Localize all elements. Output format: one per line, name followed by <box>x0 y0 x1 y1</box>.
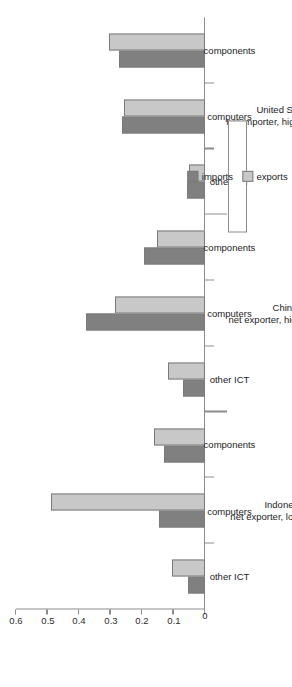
category-label: components <box>224 17 235 83</box>
category-slot: other ICT <box>16 543 205 609</box>
bar-exports[interactable] <box>124 99 205 116</box>
axis-tick-label: 0.6 <box>11 613 22 627</box>
bar-imports[interactable] <box>144 247 205 264</box>
category-slot: other ICT <box>16 149 205 215</box>
category-slot: components <box>16 214 205 280</box>
bar-exports[interactable] <box>172 559 205 576</box>
category-label: other ICT <box>224 346 235 412</box>
bar-imports[interactable] <box>164 445 205 462</box>
country-caption: Chinanet exporter, higher growth <box>273 214 292 411</box>
legend-label: exports <box>257 170 288 181</box>
category-separator <box>205 279 214 280</box>
category-separator <box>205 82 214 83</box>
bar-chart: 00.10.20.30.40.50.6 other ICTcomputersco… <box>0 0 292 687</box>
plot-area: 00.10.20.30.40.50.6 other ICTcomputersco… <box>16 17 205 609</box>
axis-tick-label: 0.4 <box>74 613 85 627</box>
legend-item-imports[interactable]: imports <box>187 170 233 181</box>
chart-legend: importsexports <box>228 120 247 232</box>
category-separator <box>205 147 214 148</box>
bar-imports[interactable] <box>159 510 205 527</box>
bar-exports[interactable] <box>157 230 205 247</box>
country-separator <box>205 410 227 411</box>
country-group-indonesia: other ICTcomputerscomponentsIndonesianet… <box>16 412 205 609</box>
axis-tick-label: 0 <box>200 613 211 618</box>
bar-imports[interactable] <box>188 576 205 593</box>
bar-exports[interactable] <box>154 428 205 445</box>
category-slot: computers <box>16 280 205 346</box>
country-note: net exporter, lower growth <box>230 510 292 522</box>
country-caption: Indonesianet exporter, lower growth <box>273 412 292 609</box>
country-group-united-states: other ICTcomputerscomponentsUnited State… <box>16 17 205 214</box>
category-separator <box>205 542 214 543</box>
bar-imports[interactable] <box>183 379 205 396</box>
category-separator <box>205 345 214 346</box>
legend-swatch-imports <box>187 170 198 181</box>
category-slot: other ICT <box>16 346 205 412</box>
legend-swatch-exports <box>242 170 253 181</box>
category-label: other ICT <box>224 543 235 609</box>
legend-item-exports[interactable]: exports <box>242 170 288 181</box>
legend-label: imports <box>202 170 233 181</box>
country-separator <box>205 213 227 214</box>
bar-groups: other ICTcomputerscomponentsIndonesianet… <box>16 17 205 609</box>
bar-imports[interactable] <box>86 313 205 330</box>
axis-tick-label: 0.2 <box>137 613 148 627</box>
country-note: net exporter, higher growth <box>228 313 292 325</box>
bar-exports[interactable] <box>51 493 205 510</box>
category-separator <box>205 476 214 477</box>
country-group-china: other ICTcomputerscomponentsChinanet exp… <box>16 214 205 411</box>
bar-imports[interactable] <box>122 116 205 133</box>
country-name: United States <box>226 104 292 116</box>
bar-exports[interactable] <box>168 362 205 379</box>
axis-tick-label: 0.1 <box>168 613 179 627</box>
bar-imports[interactable] <box>187 181 205 198</box>
bar-imports[interactable] <box>119 50 205 67</box>
category-slot: computers <box>16 477 205 543</box>
category-slot: components <box>16 412 205 478</box>
bar-exports[interactable] <box>115 296 205 313</box>
category-label: components <box>224 412 235 478</box>
country-name: Indonesia <box>230 498 292 510</box>
category-slot: computers <box>16 83 205 149</box>
axis-tick-label: 0.5 <box>42 613 53 627</box>
country-caption: United Statesnet importer, highest growt… <box>273 17 292 214</box>
category-slot: components <box>16 17 205 83</box>
bar-exports[interactable] <box>109 33 205 50</box>
chart-rotation-stage: 00.10.20.30.40.50.6 other ICTcomputersco… <box>0 0 292 687</box>
country-name: China <box>228 301 292 313</box>
axis-tick-label: 0.3 <box>105 613 116 627</box>
